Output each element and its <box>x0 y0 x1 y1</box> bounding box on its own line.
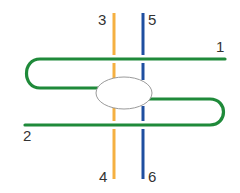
label-1: 1 <box>216 38 224 55</box>
label-2: 2 <box>23 127 31 144</box>
strand-diagram: 1 2 3 4 5 6 <box>0 0 240 193</box>
label-5: 5 <box>148 11 156 28</box>
central-ellipse <box>96 77 152 109</box>
label-6: 6 <box>148 168 156 185</box>
label-4: 4 <box>99 168 107 185</box>
label-3: 3 <box>98 11 106 28</box>
